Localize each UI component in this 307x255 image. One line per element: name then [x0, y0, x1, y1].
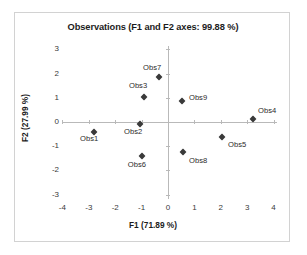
y-tick-mark: [166, 122, 170, 123]
x-tick-mark: [221, 120, 222, 124]
scatter-chart-card: Observations (F1 and F2 axes: 99.88 %) -…: [14, 12, 290, 242]
y-tick-label: -3: [43, 190, 59, 199]
x-tick-mark: [274, 120, 275, 124]
x-tick-mark: [89, 120, 90, 124]
diamond-marker-icon: [178, 98, 185, 105]
y-tick-label: -2: [43, 165, 59, 174]
y-tick-mark: [166, 195, 170, 196]
x-tick-label: -3: [81, 203, 97, 212]
x-tick-mark: [247, 120, 248, 124]
x-tick-label: 1: [186, 203, 202, 212]
x-tick-label: 3: [239, 203, 255, 212]
y-tick-mark: [166, 146, 170, 147]
x-axis-line: [63, 122, 277, 123]
x-tick-mark: [194, 120, 195, 124]
diamond-marker-icon: [180, 149, 187, 156]
x-tick-label: 4: [266, 203, 282, 212]
y-tick-mark: [166, 49, 170, 50]
data-point-label: Obs9: [189, 93, 207, 102]
y-axis-title: F2 (27.99 %): [20, 63, 30, 173]
x-tick-label: -4: [54, 203, 70, 212]
y-tick-label: 3: [43, 44, 59, 53]
y-tick-label: -1: [43, 141, 59, 150]
data-point-label: Obs1: [80, 134, 98, 143]
x-tick-label: 0: [160, 203, 176, 212]
data-point-label: Obs8: [189, 156, 207, 165]
data-point-label: Obs2: [124, 127, 142, 136]
x-tick-mark: [62, 120, 63, 124]
diamond-marker-icon: [155, 73, 162, 80]
diamond-marker-icon: [219, 133, 226, 140]
x-axis-title: F1 (71.89 %): [15, 220, 291, 230]
y-tick-label: 0: [43, 117, 59, 126]
data-point-label: Obs5: [228, 140, 246, 149]
y-tick-label: 1: [43, 93, 59, 102]
x-tick-mark: [115, 120, 116, 124]
y-tick-mark: [166, 98, 170, 99]
diamond-marker-icon: [140, 94, 147, 101]
data-point-label: Obs7: [143, 63, 161, 72]
diamond-marker-icon: [138, 152, 145, 159]
y-tick-mark: [166, 74, 170, 75]
y-tick-label: 2: [43, 69, 59, 78]
data-point-label: Obs3: [129, 81, 147, 90]
x-tick-label: -2: [107, 203, 123, 212]
x-tick-label: 2: [213, 203, 229, 212]
data-point-label: Obs4: [258, 106, 276, 115]
data-point-label: Obs6: [128, 160, 146, 169]
plot-area: -4-3-2-101234 3210-1-2-3 Obs1Obs2Obs3Obs…: [15, 13, 291, 243]
x-tick-label: -1: [134, 203, 150, 212]
y-tick-mark: [166, 170, 170, 171]
